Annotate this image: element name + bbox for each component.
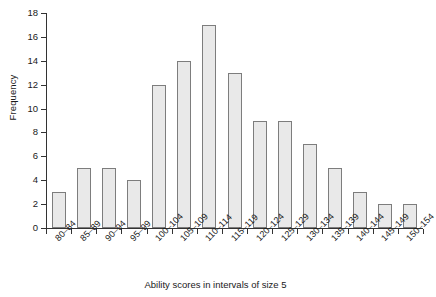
bars-layer: [46, 13, 423, 228]
y-axis-tick-label: 0: [4, 223, 38, 233]
bar: [127, 180, 141, 228]
bar: [228, 73, 242, 228]
y-axis-tick-label: 6: [4, 151, 38, 161]
bar: [102, 168, 116, 228]
y-axis-tick-label: 18: [4, 8, 38, 18]
y-axis-tick-label: 14: [4, 56, 38, 66]
y-axis-tick-label: 16: [4, 32, 38, 42]
bar: [77, 168, 91, 228]
y-axis-title: Frequency: [7, 58, 18, 138]
y-axis-tick-label: 8: [4, 127, 38, 137]
y-axis-tick-label: 2: [4, 199, 38, 209]
x-axis-tick: [46, 229, 47, 234]
bar: [202, 25, 216, 228]
y-axis-tick-label: 10: [4, 104, 38, 114]
bar: [177, 61, 191, 228]
y-axis-tick-label: 12: [4, 80, 38, 90]
bar: [253, 121, 267, 229]
bar: [152, 85, 166, 228]
y-axis-tick-label: 4: [4, 175, 38, 185]
x-axis-title: Ability scores in intervals of size 5: [0, 279, 431, 290]
bar: [52, 192, 66, 228]
